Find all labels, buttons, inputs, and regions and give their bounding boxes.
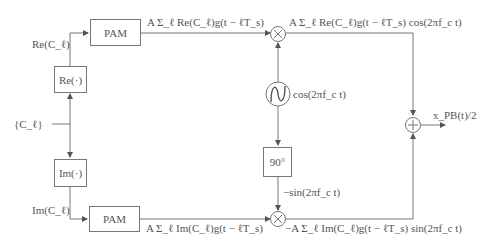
- oscillator-label: cos(2πf_c t): [293, 88, 346, 100]
- im-c-label: Im(C_ℓ): [32, 204, 70, 216]
- im-block: Im(·): [54, 159, 87, 187]
- pam-bottom-block: PAM: [89, 206, 140, 232]
- pam-bottom-output-label: A Σ_ℓ Im(C_ℓ)g(t − ℓT_s): [146, 222, 263, 234]
- mult-bottom-output-label: −A Σ_ℓ Im(C_ℓ)g(t − ℓT_s) sin(2πf_c t): [285, 222, 462, 234]
- phase-shift-block: 90°: [263, 147, 292, 177]
- input-label: {C_ℓ}: [14, 118, 43, 130]
- re-block-label: Re(·): [59, 74, 82, 86]
- adder-icon: [406, 118, 421, 133]
- pam-top-block: PAM: [90, 19, 141, 46]
- pam-top-output-label: A Σ_ℓ Re(C_ℓ)g(t − ℓT_s): [147, 16, 264, 28]
- output-label: x_PB(t)/2: [433, 109, 476, 121]
- multiplier-icon: [271, 212, 286, 227]
- re-block: Re(·): [54, 66, 87, 93]
- diagram-wires: [0, 0, 500, 248]
- multiplier-icon: [271, 27, 286, 42]
- im-block-label: Im(·): [59, 167, 82, 179]
- pam-bottom-label: PAM: [103, 213, 126, 225]
- sine-oscillator-icon: [266, 82, 290, 106]
- phase-shift-label: 90°: [270, 156, 285, 168]
- neg-sin-label: −sin(2πf_c t): [283, 186, 340, 198]
- mult-top-output-label: A Σ_ℓ Re(C_ℓ)g(t − ℓT_s) cos(2πf_c t): [289, 16, 462, 28]
- re-c-label: Re(C_ℓ): [32, 38, 70, 50]
- pam-top-label: PAM: [104, 27, 127, 39]
